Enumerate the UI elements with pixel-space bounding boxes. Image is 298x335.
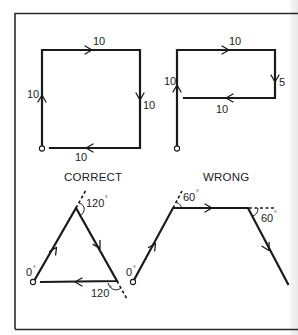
turn-angle-label: 120 [86,197,104,209]
turn-angle-label: 60 [183,191,195,203]
turn-angle-label: 120 [91,287,109,299]
start-angle-label: 0 [126,266,132,278]
wrong-path: WRONG 60 ° 60 ° 0 ° [126,171,288,285]
degree-mark: ° [274,210,277,217]
length-label-bottom: 10 [216,103,228,115]
angle-arc-icon [252,208,258,216]
start-point-icon [39,146,44,151]
length-label-bottom: 10 [75,151,87,163]
turtle-path-diagram: .path { stroke:#1a1a1a; stroke-width:2.2… [0,0,298,335]
length-label-right: 10 [143,99,155,111]
degree-mark: ° [133,265,136,272]
turn-angle-label: 60 [261,212,273,224]
caption-wrong: WRONG [203,171,249,183]
extension-dash [76,190,86,208]
correct-triangle-path: CORRECT 120 ° 120 ° 0 ° [26,171,127,299]
degree-mark: ° [196,189,199,196]
length-label-right: 5 [279,76,285,88]
length-label-top: 10 [229,35,241,47]
square-path: 10 10 10 10 [27,35,155,163]
extension-dash [117,281,127,299]
caption-correct: CORRECT [64,171,122,183]
degree-mark: ° [105,195,108,202]
start-point-icon [174,146,179,151]
start-point-icon [130,279,135,284]
degree-mark: ° [33,265,36,272]
start-angle-label: 0 [26,266,32,278]
open-rectangle-path: 10 10 5 10 [164,35,285,151]
length-label-left: 10 [27,88,39,100]
length-label-left: 10 [164,75,176,87]
degree-mark: ° [109,285,112,292]
start-point-icon [30,279,35,284]
length-label-top: 10 [93,35,105,47]
